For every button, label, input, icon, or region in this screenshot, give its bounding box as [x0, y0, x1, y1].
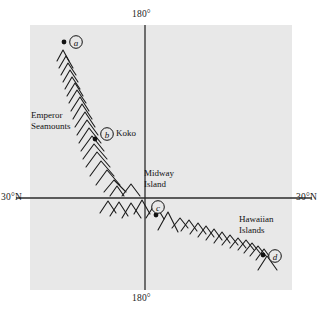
axis-label-top: 180° — [132, 9, 151, 19]
marker-b-letter: b — [105, 130, 110, 140]
seamount-map-figure: a b c d 180° 180° 30°N 30°N Emperor Seam… — [0, 0, 326, 319]
label-emperor-line1: Emperor — [31, 110, 71, 121]
marker-c-letter: c — [156, 203, 160, 213]
marker-d-dot — [261, 253, 266, 258]
label-koko: Koko — [116, 128, 136, 138]
axis-label-right: 30°N — [296, 192, 317, 202]
map-graphics: a b c d — [0, 0, 326, 319]
label-hawaiian-line1: Hawaiian — [239, 214, 273, 225]
marker-a-dot — [62, 40, 67, 45]
label-hawaiian-line2: Islands — [239, 225, 273, 236]
marker-d-letter: d — [273, 252, 278, 262]
label-midway-line2: Island — [144, 179, 174, 190]
axis-label-bottom: 180° — [132, 293, 151, 303]
chain-bend-region — [100, 184, 150, 218]
label-midway-island: Midway Island — [144, 168, 174, 190]
marker-b-dot — [93, 137, 98, 142]
label-emperor-line2: Seamounts — [31, 121, 71, 132]
marker-b[interactable]: b — [93, 128, 114, 142]
label-midway-line1: Midway — [144, 168, 174, 179]
label-hawaiian-islands: Hawaiian Islands — [239, 214, 273, 236]
marker-c[interactable]: c — [152, 201, 165, 218]
marker-a[interactable]: a — [62, 36, 83, 49]
label-emperor-seamounts: Emperor Seamounts — [31, 110, 71, 132]
marker-a-letter: a — [74, 38, 79, 48]
axis-label-left: 30°N — [1, 192, 22, 202]
